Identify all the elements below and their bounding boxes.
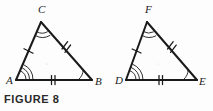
vertex-label-E: E xyxy=(198,75,206,87)
triangle-ABC: A B C xyxy=(5,3,102,87)
vertex-label-D: D xyxy=(114,74,123,86)
vertex-label-F: F xyxy=(144,3,152,15)
tick-mark-side-FE xyxy=(168,42,177,53)
vertex-label-A: A xyxy=(5,74,13,86)
angle-arc-F xyxy=(142,32,156,38)
angle-arc-E xyxy=(183,69,188,80)
vertex-label-B: B xyxy=(95,75,102,87)
figure-page: A B C xyxy=(0,0,213,111)
angle-arc-C xyxy=(35,32,50,38)
vertex-label-C: C xyxy=(38,3,46,15)
tick-mark-side-CB xyxy=(62,42,71,53)
figure-caption: FIGURE 8 xyxy=(4,93,60,105)
angle-arc-B xyxy=(78,69,83,80)
scan-speckle xyxy=(46,63,158,64)
triangle-DEF: D E F xyxy=(114,3,206,87)
